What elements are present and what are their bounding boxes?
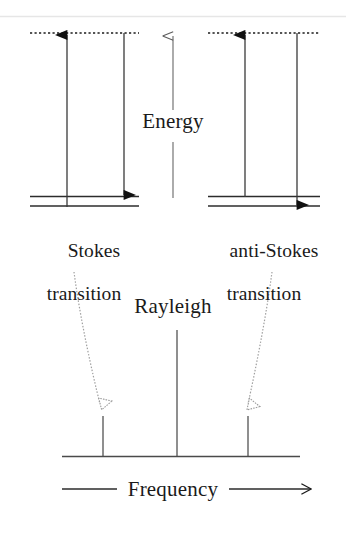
figure-canvas: Energy Rayleigh Frequency Stokes transit… (0, 0, 346, 533)
stokes-transition-label: Stokes transition (8, 218, 160, 349)
antistokes-label-line-2: transition (188, 283, 340, 305)
stokes-label-line-1: Stokes (68, 240, 121, 261)
antistokes-label-line-1: anti-Stokes (230, 240, 319, 261)
stokes-label-line-2: transition (8, 283, 160, 305)
frequency-axis-label: Frequency (113, 478, 233, 502)
antistokes-transition-label: anti-Stokes transition (188, 218, 340, 349)
energy-axis-label: Energy (113, 110, 233, 134)
